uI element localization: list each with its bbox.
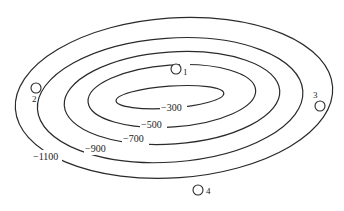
contour-label-500: −500: [141, 119, 162, 130]
point-marker-icon: [193, 185, 203, 195]
contour-label-300: −300: [161, 102, 182, 113]
point-3: 3: [313, 90, 325, 111]
contour-minus-700: [61, 45, 283, 152]
point-label: 3: [313, 90, 318, 100]
point-marker-icon: [315, 101, 325, 111]
point-4: 4: [193, 185, 211, 196]
contour-diagram: −1100 −900 −700 −500 −300 1 2 3 4: [0, 0, 344, 211]
point-2: 2: [31, 83, 41, 104]
point-label: 4: [206, 186, 211, 196]
point-marker-icon: [171, 64, 181, 74]
contour-minus-900: [33, 29, 307, 171]
contour-label-1100: −1100: [33, 151, 58, 162]
contour-label-700: −700: [123, 133, 144, 144]
point-label: 2: [32, 94, 37, 104]
contour-label-900: −900: [85, 143, 106, 154]
point-label: 1: [183, 67, 188, 77]
point-marker-icon: [31, 83, 41, 93]
